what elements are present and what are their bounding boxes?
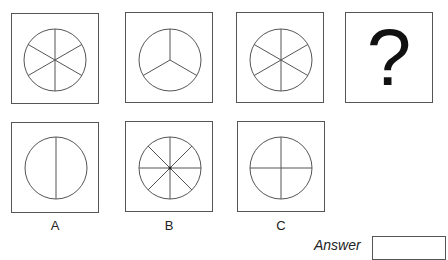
answer-label: Answer <box>314 237 361 253</box>
option-b-tile[interactable] <box>125 121 213 212</box>
circle-three-segments-icon <box>126 13 214 104</box>
circle-six-segments-icon <box>237 13 325 104</box>
sequence-tile-unknown: ? <box>345 12 433 103</box>
question-mark-icon: ? <box>346 13 432 102</box>
sequence-tile-3 <box>236 12 324 103</box>
answer-input[interactable] <box>372 236 446 260</box>
option-a-tile[interactable] <box>11 122 99 213</box>
option-b-label: B <box>125 218 213 233</box>
sequence-tile-1 <box>11 13 99 104</box>
circle-four-segments-icon <box>238 122 326 213</box>
option-a-label: A <box>11 218 99 233</box>
circle-six-segments-icon <box>12 14 100 105</box>
sequence-tile-2 <box>125 12 213 103</box>
option-c-label: C <box>237 218 325 233</box>
circle-eight-segments-icon <box>126 122 214 213</box>
option-c-tile[interactable] <box>237 121 325 212</box>
circle-two-segments-icon <box>12 123 100 214</box>
